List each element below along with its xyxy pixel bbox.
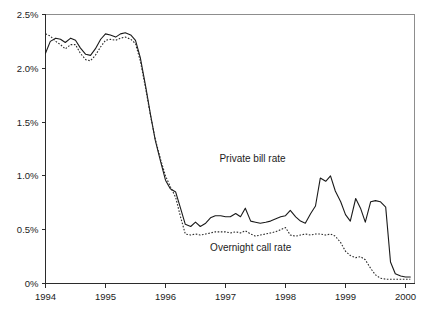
x-tick-label: 1995 (95, 291, 116, 302)
y-tick-label: 1.0% (17, 170, 39, 181)
x-tick-label: 1998 (275, 291, 296, 302)
x-tick-label: 1996 (155, 291, 176, 302)
x-tick-label: 1997 (215, 291, 236, 302)
y-tick-label: 0.5% (17, 224, 39, 235)
x-tick-label: 2000 (395, 291, 416, 302)
y-tick-label: 2.0% (17, 63, 39, 74)
y-tick-label: 1.5% (17, 117, 39, 128)
line-chart: 2.5%2.0%1.5%1.0%0.5%0% 19941995199619971… (0, 0, 427, 318)
chart-container: 2.5%2.0%1.5%1.0%0.5%0% 19941995199619971… (0, 0, 427, 318)
annotation-overnight-call-rate: Overnight call rate (210, 242, 292, 253)
y-tick-label: 0% (25, 278, 39, 289)
annotation-private-bill-rate: Private bill rate (219, 153, 286, 164)
x-axis-ticks: 1994199519961997199819992000 (35, 284, 416, 302)
x-tick-label: 1994 (35, 291, 56, 302)
y-tick-label: 2.5% (17, 9, 39, 20)
series-annotations: Private bill rateOvernight call rate (210, 153, 292, 253)
x-tick-label: 1999 (335, 291, 356, 302)
y-axis-ticks: 2.5%2.0%1.5%1.0%0.5%0% (17, 9, 46, 289)
